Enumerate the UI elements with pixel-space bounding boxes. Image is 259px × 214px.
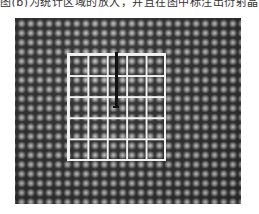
lattice-micrograph xyxy=(15,18,241,204)
cropped-caption-text: 图(b)为统计区域的放大，并且在图中标注出衍射晶面 xyxy=(0,0,259,7)
dislocation-marker xyxy=(115,52,118,108)
